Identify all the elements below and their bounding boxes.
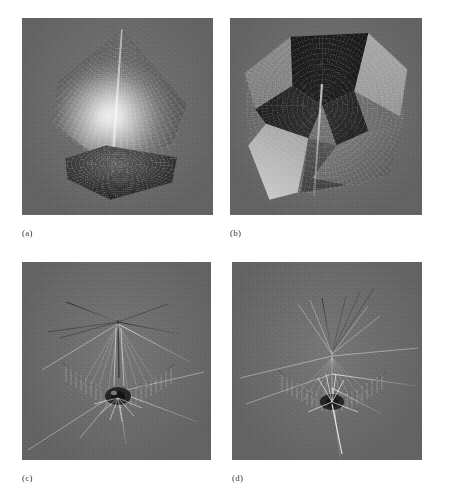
spike-mesh-svg-d: [232, 262, 422, 460]
panel-b-canvas: [230, 18, 422, 215]
panel-c-caption: (c): [22, 474, 33, 483]
panel-a-canvas: [22, 18, 213, 215]
panel-c: [22, 262, 211, 460]
panel-d: [232, 262, 422, 460]
panel-b: [230, 18, 422, 215]
panel-a: [22, 18, 213, 215]
panel-d-canvas: [232, 262, 422, 460]
panel-a-caption: (a): [22, 229, 33, 238]
cone-base-mesh: [63, 145, 182, 199]
panel-d-caption: (d): [232, 474, 243, 483]
spike-mesh-plot-c: [22, 262, 211, 460]
cone-surface: [37, 26, 197, 207]
saddle-surface: [238, 26, 415, 207]
spike-mesh-svg-c: [22, 262, 211, 460]
spike-mesh-plot-d: [232, 262, 422, 460]
panel-c-canvas: [22, 262, 211, 460]
figure-sheet: (a) (b): [0, 0, 449, 495]
panel-b-caption: (b): [230, 229, 241, 238]
